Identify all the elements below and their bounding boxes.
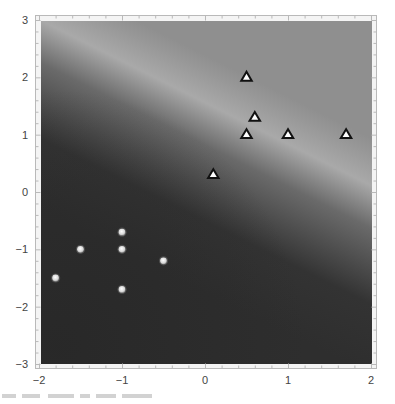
circle-marker <box>119 229 126 236</box>
circle-marker <box>119 286 126 293</box>
x-tick-label: 2 <box>368 374 374 386</box>
y-tick-label: −1 <box>15 243 28 255</box>
cropped-caption <box>0 388 395 404</box>
x-tick-label: −1 <box>116 374 129 386</box>
circle-marker <box>77 246 84 253</box>
x-tick-label: 1 <box>285 374 291 386</box>
y-tick-label: −2 <box>15 301 28 313</box>
y-tick-label: 3 <box>22 14 28 26</box>
circle-marker <box>52 275 59 282</box>
y-tick-label: 0 <box>22 186 28 198</box>
scatter-plot: −2−1012−3−2−10123 <box>0 0 395 404</box>
y-tick-label: −3 <box>15 358 28 370</box>
y-tick-label: 1 <box>22 129 28 141</box>
y-tick-label: 2 <box>22 71 28 83</box>
density-background <box>41 21 372 364</box>
x-tick-label: 0 <box>202 374 208 386</box>
circle-marker <box>119 246 126 253</box>
circle-marker <box>160 257 167 264</box>
x-tick-label: −2 <box>33 374 46 386</box>
